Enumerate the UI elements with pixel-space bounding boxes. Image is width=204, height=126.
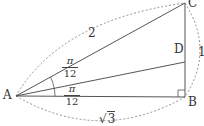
angle-denominator: 12: [62, 68, 78, 79]
point-label-B: B: [188, 96, 197, 108]
angle-arc-CAD: [51, 77, 55, 88]
segment-AB: [16, 96, 185, 97]
angle-label-DAB: π 12: [64, 84, 80, 107]
angle-denominator: 12: [64, 96, 80, 107]
angle-label-CAD: π 12: [62, 56, 78, 79]
point-label-A: A: [3, 89, 12, 101]
sqrt-radicand: 3: [107, 111, 116, 126]
angle-numerator: π: [62, 56, 78, 67]
right-angle-marker-icon: [178, 90, 185, 97]
point-label-C: C: [188, 0, 197, 9]
length-label-BC: 1: [198, 46, 204, 58]
triangle-diagram: [0, 0, 204, 126]
angle-arc-DAB: [54, 88, 55, 96]
length-label-AB: √3: [99, 113, 115, 125]
segment-AD: [16, 62, 185, 96]
angle-numerator: π: [64, 84, 80, 95]
sqrt-symbol-icon: √: [99, 112, 107, 126]
point-label-D: D: [174, 43, 184, 55]
length-label-AC: 2: [88, 27, 96, 39]
segment-AC: [16, 3, 185, 96]
